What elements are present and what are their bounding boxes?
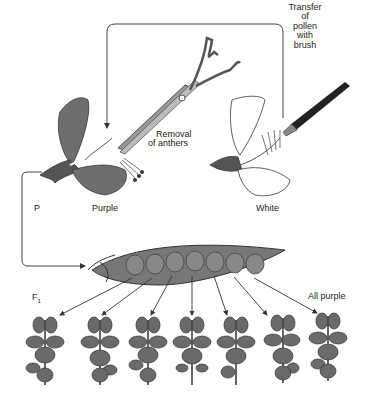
f1-plants	[26, 313, 347, 385]
white-label: White	[256, 204, 279, 213]
removal-label: Removal of anthers	[148, 130, 192, 149]
transfer-label: Transfer of pollen with brush	[283, 3, 327, 50]
white-flower-icon	[210, 96, 290, 196]
transfer-line-5: brush	[283, 41, 327, 50]
all-purple-label: All purple	[308, 292, 346, 301]
purple-label: Purple	[92, 204, 118, 213]
removal-line-2: of anthers	[148, 139, 192, 148]
f1-label: F1	[32, 293, 41, 304]
p-label: P	[34, 204, 40, 213]
f1-subscript: 1	[38, 298, 41, 304]
brush-icon	[283, 82, 350, 136]
p-to-pod-arrow	[22, 172, 85, 266]
cross-diagram	[0, 0, 371, 409]
